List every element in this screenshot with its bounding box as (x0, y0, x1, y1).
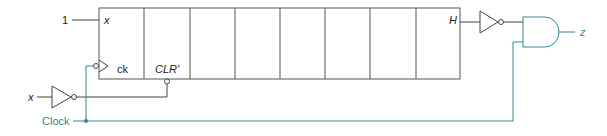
ck-label: ck (117, 63, 129, 75)
x-inverter (52, 86, 77, 108)
clear-label: CLR' (155, 63, 180, 75)
inverter-bubble (72, 95, 77, 100)
constant-one-label: 1 (62, 14, 68, 26)
shift-in-label: x (103, 14, 110, 26)
z-output-label: z (579, 26, 586, 38)
x-input-label: x (27, 91, 34, 103)
clear-bubble (165, 79, 170, 84)
inverter-bubble (499, 20, 504, 25)
clock-wire (73, 42, 523, 121)
and-gate (523, 17, 559, 47)
inverter-triangle (480, 11, 498, 33)
clock-label: Clock (42, 115, 70, 127)
shift-register (99, 8, 460, 79)
h-output-label: H (449, 14, 457, 26)
clock-bubble (94, 64, 99, 69)
circuit-diagram: 1 x ck CLR' x H z Clock (0, 0, 607, 136)
h-inverter (480, 11, 504, 33)
clock-input-symbol (94, 60, 109, 72)
clear-wire (77, 84, 168, 97)
clock-to-register-wire (86, 66, 94, 121)
inverter-triangle (52, 86, 71, 108)
